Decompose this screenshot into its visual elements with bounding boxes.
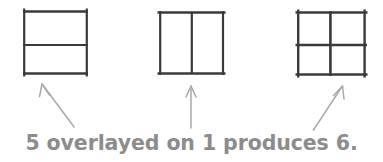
arrow-to-figure-6-head-right [343, 86, 345, 99]
arrow-to-figure-5-head-left [40, 84, 43, 97]
arrow-to-figure-5-head-right [42, 84, 50, 95]
arrow-to-figure-6 [314, 86, 345, 130]
figure-1-group [158, 11, 226, 75]
diagram-root: 5 overlayed on 1 produces 6. [0, 0, 383, 162]
caption-text: 5 overlayed on 1 produces 6. [25, 133, 357, 154]
arrow-to-figure-1 [186, 86, 196, 128]
arrow-to-figure-6-head-left [334, 86, 343, 96]
caption-container: 5 overlayed on 1 produces 6. [0, 126, 383, 160]
figure-6-group [296, 10, 368, 78]
figure-5-group [23, 9, 88, 77]
arrow-to-figure-5 [40, 84, 75, 127]
arrow-to-figure-6-shaft [314, 87, 343, 131]
